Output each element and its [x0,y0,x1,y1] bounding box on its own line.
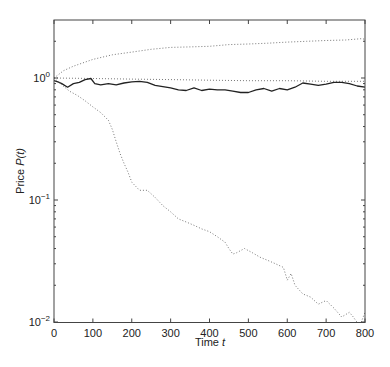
series-line-price-path [54,79,365,93]
x-tick-label: 0 [51,327,57,339]
x-tick-label: 700 [317,327,335,339]
series-line-flat-dotted-reference [54,78,365,81]
y-tick-label: 10−1 [29,192,51,206]
y-axis-label-text: Price [14,166,26,194]
series-layer [54,39,365,323]
y-tick-label: 10−2 [29,314,51,328]
x-axis-label: Time t [195,336,226,348]
x-tick-label: 600 [278,327,296,339]
x-axis-ticks: 0100200300400500600700800 [51,20,374,339]
y-axis-label-var: P(t) [14,148,26,166]
x-tick-label: 500 [239,327,257,339]
x-tick-label: 800 [356,327,374,339]
series-line-upper-dotted-bound [54,39,365,78]
y-tick-label: 100 [33,70,50,84]
price-chart: 0100200300400500600700800 10−210−1100 Ti… [0,0,390,367]
x-tick-label: 300 [161,327,179,339]
x-axis-label-var: t [222,336,226,348]
plot-frame [54,20,365,323]
x-axis-label-text: Time [195,336,222,348]
y-axis-label: Price P(t) [14,148,26,194]
series-line-lower-dotted-bound [54,78,365,323]
x-tick-label: 200 [123,327,141,339]
x-tick-label: 100 [84,327,102,339]
